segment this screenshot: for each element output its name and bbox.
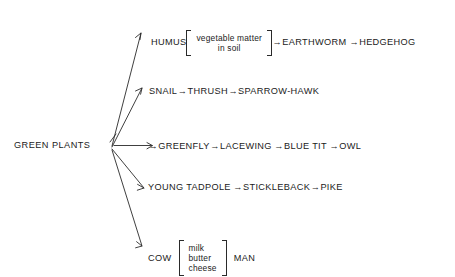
node-man: MAN bbox=[234, 253, 255, 263]
node-pike: PIKE bbox=[320, 182, 342, 192]
bracket-body: milkbuttercheese bbox=[184, 240, 222, 276]
node-owl: OWL bbox=[339, 141, 361, 151]
node-cow: COW bbox=[148, 253, 172, 263]
bracket-humus-contents: vegetable matterin soil bbox=[186, 30, 272, 56]
node-green-plants: GREEN PLANTS bbox=[14, 140, 90, 150]
bracket-line: cheese bbox=[189, 263, 217, 273]
chain-greenfly: →GREENFLY→LACEWING→BLUE TIT→OWL bbox=[148, 141, 361, 152]
chain-tadpole: YOUNG TADPOLE→STICKLEBACK→PIKE bbox=[148, 182, 343, 193]
node-humus: HUMUS bbox=[151, 37, 186, 47]
node-lacewing: LACEWING bbox=[220, 141, 272, 151]
arrow-icon: → bbox=[346, 37, 359, 47]
food-web-diagram: GREEN PLANTS HUMUSvegetable matterin soi… bbox=[0, 0, 455, 277]
arrow-icon: → bbox=[177, 86, 187, 96]
node-label: GREEN PLANTS bbox=[14, 140, 90, 150]
chain-snail: SNAIL→THRUSH→SPARROW-HAWK bbox=[149, 86, 319, 97]
node-sparrow-hawk: SPARROW-HAWK bbox=[238, 86, 319, 96]
arrow-icon: → bbox=[327, 141, 339, 151]
node-stickleback: STICKLEBACK bbox=[243, 182, 310, 192]
node-earthworm: EARTHWORM bbox=[282, 37, 346, 47]
arrow-icon: → bbox=[228, 86, 238, 96]
bracket-line: milk bbox=[189, 243, 205, 253]
arrow-icon: → bbox=[210, 141, 220, 151]
node-greenfly: GREENFLY bbox=[158, 141, 210, 151]
chain-humus: HUMUSvegetable matterin soil→EARTHWORM→H… bbox=[151, 30, 416, 56]
bracket-body: vegetable matterin soil bbox=[191, 30, 267, 56]
arrow-icon: → bbox=[272, 37, 282, 47]
arrow-icon: → bbox=[272, 141, 284, 151]
node-thrush: THRUSH bbox=[188, 86, 228, 96]
node-young-tadpole: YOUNG TADPOLE bbox=[148, 182, 231, 192]
arrow-icon: → bbox=[310, 182, 320, 192]
chain-cow: COWmilkbuttercheeseMAN bbox=[148, 240, 255, 276]
node-hedgehog: HEDGEHOG bbox=[359, 37, 415, 47]
arrow-icon: → bbox=[148, 141, 158, 151]
bracket-line: in soil bbox=[218, 43, 241, 53]
arrow-icon: → bbox=[231, 182, 243, 192]
bracket-line: butter bbox=[189, 253, 212, 263]
bracket-right-icon bbox=[222, 240, 227, 276]
bracket-line: vegetable matter bbox=[196, 33, 262, 43]
node-snail: SNAIL bbox=[149, 86, 177, 96]
node-blue-tit: BLUE TIT bbox=[284, 141, 327, 151]
bracket-cow-products: milkbuttercheese bbox=[179, 240, 227, 276]
